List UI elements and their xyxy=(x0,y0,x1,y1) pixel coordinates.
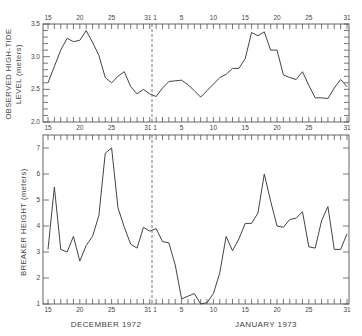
y-tick-label: 2 xyxy=(36,274,40,281)
x-tick-label-top: 15 xyxy=(44,14,52,21)
x-tick-label-bottom: 10 xyxy=(210,124,218,131)
y-tick-label: 6 xyxy=(36,170,40,177)
x-tick-label-bottom: 20 xyxy=(273,124,281,131)
y-tick-label: 5 xyxy=(36,196,40,203)
xlabel-january: JANUARY 1973 xyxy=(235,320,297,329)
x-tick-label-bottom: 5 xyxy=(180,124,184,131)
y-tick-label: 3.5 xyxy=(31,20,40,27)
x-tick-label-bottom: 15 xyxy=(44,306,52,313)
x-tick-label-bottom: 5 xyxy=(180,306,184,313)
breaker-height-series-line xyxy=(48,148,347,304)
x-tick-label-top: 31 xyxy=(343,14,351,21)
x-tick-label-top: 1 xyxy=(153,14,157,21)
y-tick-label: 3.0 xyxy=(31,53,40,60)
x-tick-label-bottom: 31 xyxy=(343,124,351,131)
x-tick-label-bottom: 25 xyxy=(305,124,313,131)
x-tick-label-top: 5 xyxy=(180,14,184,21)
y-tick-label: 2.0 xyxy=(31,118,40,125)
x-tick-label-top: 20 xyxy=(76,14,84,21)
high-tide-series-line xyxy=(48,31,347,99)
x-tick-label-bottom: 15 xyxy=(242,124,250,131)
xlabel-december: DECEMBER 1972 xyxy=(71,320,142,329)
x-tick-label-bottom: 1 xyxy=(153,124,157,131)
x-tick-label-bottom: 31 xyxy=(343,306,351,313)
x-tick-label-top: 15 xyxy=(242,14,250,21)
breaker-height-panel: 152025311510152025311234567 BREAKER HEIG… xyxy=(19,135,351,329)
high-tide-panel: 1515202025253131115510101515202025253131… xyxy=(4,14,351,131)
y-tick-label: 4 xyxy=(36,222,40,229)
x-tick-label-bottom: 20 xyxy=(76,306,84,313)
x-tick-label-top: 25 xyxy=(305,14,313,21)
y-tick-label: 2.5 xyxy=(31,85,40,92)
x-tick-label-bottom: 25 xyxy=(108,306,116,313)
x-tick-label-bottom: 25 xyxy=(305,306,313,313)
y-tick-label: 3 xyxy=(36,248,40,255)
x-tick-label-top: 10 xyxy=(210,14,218,21)
breaker-height-frame xyxy=(43,135,349,304)
x-tick-label-bottom: 15 xyxy=(44,124,52,131)
x-tick-label-bottom: 1 xyxy=(153,306,157,313)
x-tick-label-bottom: 15 xyxy=(242,306,250,313)
x-tick-label-bottom: 31 xyxy=(144,124,152,131)
x-tick-label-top: 31 xyxy=(144,14,152,21)
breaker-height-tick-labels: 152025311510152025311234567 xyxy=(36,144,351,313)
y-tick-label: 7 xyxy=(36,144,40,151)
x-tick-label-top: 20 xyxy=(273,14,281,21)
breaker-height-ylabel: BREAKER HEIGHT (meters) xyxy=(19,168,28,276)
x-tick-label-bottom: 31 xyxy=(144,306,152,313)
x-tick-label-bottom: 10 xyxy=(210,306,218,313)
x-tick-label-bottom: 20 xyxy=(76,124,84,131)
x-tick-label-top: 25 xyxy=(108,14,116,21)
y-tick-label: 1 xyxy=(36,300,40,307)
breaker-height-ticks xyxy=(43,135,349,304)
chart: 1515202025253131115510101515202025253131… xyxy=(0,0,362,336)
high-tide-ylabel-line2: LEVEL (meters) xyxy=(14,44,23,104)
x-tick-label-bottom: 25 xyxy=(108,124,116,131)
x-tick-label-bottom: 20 xyxy=(273,306,281,313)
high-tide-ylabel-line1: OBSERVED HIGH-TIDE xyxy=(4,29,13,120)
